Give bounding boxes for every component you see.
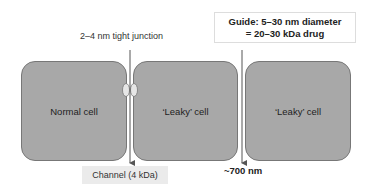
channel-label: Channel (4 kDa) — [82, 166, 168, 184]
gap-label: ~700 nm — [224, 165, 262, 176]
diagram-overlay — [0, 0, 370, 190]
